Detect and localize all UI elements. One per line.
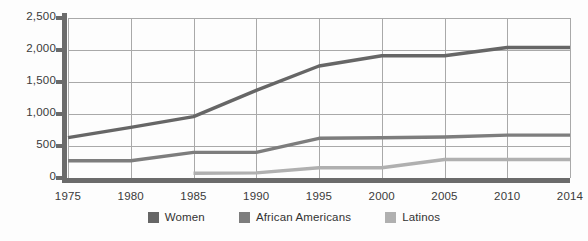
line-chart: 2,5002,0001,5001,0005000 197519801985199…: [0, 0, 588, 241]
legend-label-african-americans: African Americans: [256, 211, 351, 223]
series-paths: [0, 0, 588, 241]
series-line-latinos: [194, 159, 571, 173]
legend-item-women[interactable]: Women: [148, 211, 205, 223]
series-group: [68, 47, 570, 173]
legend-swatch-latinos: [385, 212, 396, 223]
series-line-women: [68, 47, 570, 137]
legend-label-women: Women: [165, 211, 205, 223]
legend-item-latinos[interactable]: Latinos: [385, 211, 440, 223]
legend-label-latinos: Latinos: [402, 211, 440, 223]
chart-legend: Women African Americans Latinos: [0, 211, 588, 223]
legend-item-african-americans[interactable]: African Americans: [239, 211, 351, 223]
series-line-african-americans: [68, 135, 570, 161]
legend-swatch-women: [148, 212, 159, 223]
legend-swatch-african-americans: [239, 212, 250, 223]
